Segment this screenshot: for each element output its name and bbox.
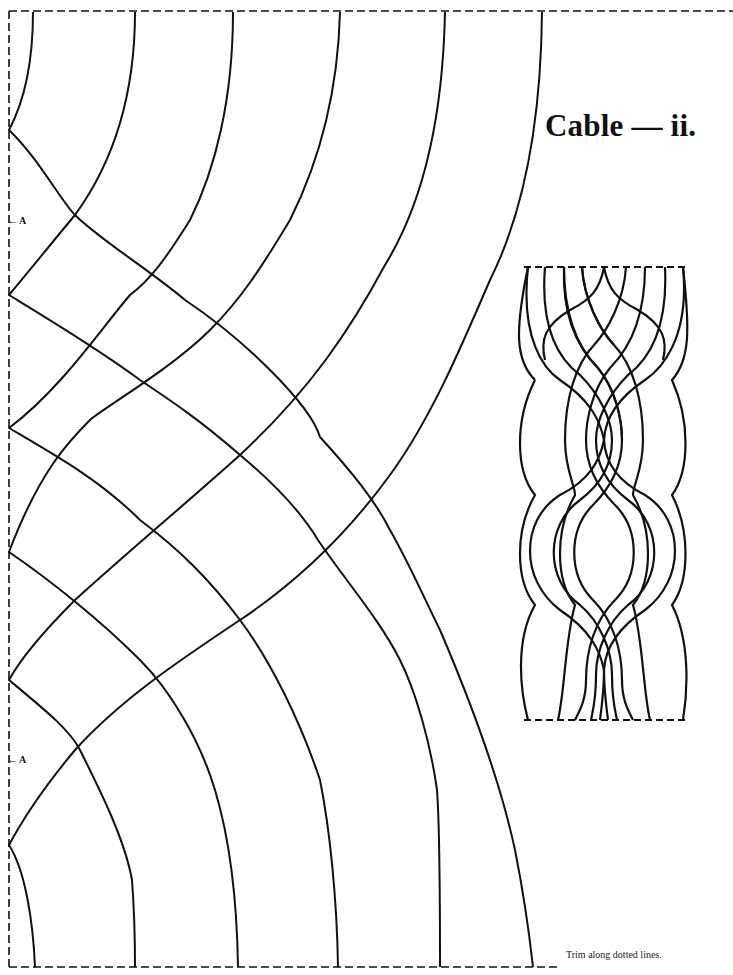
preview-strand-left-4 [582,267,614,345]
cable-pattern-template [0,0,733,975]
cable-preview [519,267,687,720]
preview-strand-right-4 [558,267,626,720]
preview-strand-outer-right [672,267,687,720]
template-arcs [9,12,542,967]
preview-strand-left-6 [582,267,650,720]
page-title: Cable — ii. [545,108,696,144]
alignment-marker-a-upper: ←A [7,214,26,226]
left-arrow-icon: ← [7,753,18,765]
arc-top-1 [9,12,533,967]
pattern-page: Cable — ii. ←A ←A Trim along dotted line… [0,0,733,975]
arc-top-3 [9,12,338,967]
arc-top-6 [9,12,542,967]
preview-strand-outer-left [519,267,535,720]
trim-border [9,11,733,967]
arc-top-4 [9,12,340,967]
marker-label: A [19,215,26,226]
left-arrow-icon: ← [7,214,18,226]
alignment-marker-a-lower: ←A [7,753,26,765]
preview-strand-left-1 [526,267,604,720]
trim-instruction: Trim along dotted lines. [566,949,662,960]
marker-label: A [19,754,26,765]
